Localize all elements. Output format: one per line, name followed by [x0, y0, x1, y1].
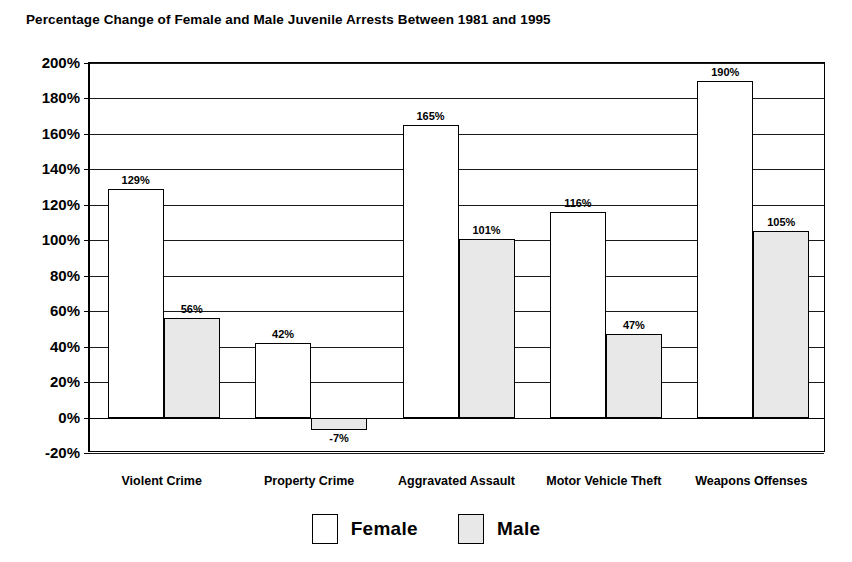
bar-value-label: 47% — [623, 319, 645, 331]
bar-male-0 — [164, 318, 220, 417]
bar-value-label: 116% — [564, 197, 592, 209]
x-axis-label-1: Property Crime — [264, 474, 354, 488]
bar-chart: Percentage Change of Female and Male Juv… — [0, 0, 852, 562]
y-axis-tick-label: 120% — [0, 195, 80, 212]
y-axis-tick-mark — [84, 311, 90, 312]
gridline — [90, 453, 824, 454]
y-axis-tick-mark — [84, 418, 90, 419]
bar-female-3 — [550, 212, 606, 418]
y-axis-tick-label: 160% — [0, 124, 80, 141]
y-axis-tick-mark — [84, 134, 90, 135]
bar-female-0 — [108, 189, 164, 418]
y-axis-tick-label: 80% — [0, 266, 80, 283]
y-axis-tick-label: 180% — [0, 89, 80, 106]
legend-item-male[interactable]: Male — [458, 514, 540, 544]
bar-female-1 — [255, 343, 311, 417]
plot-area: 129%56%42%-7%165%101%116%47%190%105% — [88, 62, 825, 452]
bar-value-label: 101% — [472, 224, 500, 236]
bar-value-label: 56% — [181, 303, 203, 315]
bar-value-label: 129% — [122, 174, 150, 186]
y-axis-tick-label: 140% — [0, 160, 80, 177]
y-axis-tick-label: 100% — [0, 231, 80, 248]
bar-male-3 — [606, 334, 662, 417]
legend-label: Male — [497, 518, 540, 540]
legend-label: Female — [351, 518, 418, 540]
chart-title: Percentage Change of Female and Male Juv… — [26, 12, 551, 27]
gridline — [90, 63, 824, 64]
y-axis-tick-mark — [84, 63, 90, 64]
x-axis-label-4: Weapons Offenses — [695, 474, 807, 488]
x-axis-label-3: Motor Vehicle Theft — [546, 474, 661, 488]
gridline — [90, 418, 824, 419]
bar-value-label: -7% — [329, 432, 349, 444]
bar-value-label: 165% — [416, 110, 444, 122]
x-axis-label-0: Violent Crime — [122, 474, 202, 488]
y-axis-tick-label: -20% — [0, 444, 80, 461]
white-square-swatch — [312, 514, 338, 544]
y-axis-tick-label: 200% — [0, 54, 80, 71]
y-axis-tick-label: 40% — [0, 337, 80, 354]
bar-male-1 — [311, 418, 367, 430]
chart-legend: FemaleMale — [0, 514, 852, 544]
x-axis-label-2: Aggravated Assault — [398, 474, 515, 488]
y-axis-tick-mark — [84, 240, 90, 241]
y-axis-tick-mark — [84, 205, 90, 206]
y-axis-tick-label: 60% — [0, 302, 80, 319]
y-axis-tick-mark — [84, 98, 90, 99]
bar-female-4 — [697, 81, 753, 418]
y-axis: 200%180%160%140%120%100%80%60%40%20%0%-2… — [0, 0, 80, 562]
y-axis-tick-mark — [84, 347, 90, 348]
y-axis-tick-mark — [84, 382, 90, 383]
bar-value-label: 105% — [767, 216, 795, 228]
legend-item-female[interactable]: Female — [312, 514, 418, 544]
y-axis-tick-label: 20% — [0, 373, 80, 390]
bar-value-label: 190% — [711, 66, 739, 78]
y-axis-tick-mark — [84, 276, 90, 277]
y-axis-tick-label: 0% — [0, 408, 80, 425]
bar-value-label: 42% — [272, 328, 294, 340]
y-axis-tick-mark — [84, 169, 90, 170]
bar-female-2 — [403, 125, 459, 418]
gray-square-swatch — [458, 514, 484, 544]
bar-male-4 — [753, 231, 809, 417]
y-axis-tick-mark — [84, 453, 90, 454]
bar-male-2 — [459, 239, 515, 418]
